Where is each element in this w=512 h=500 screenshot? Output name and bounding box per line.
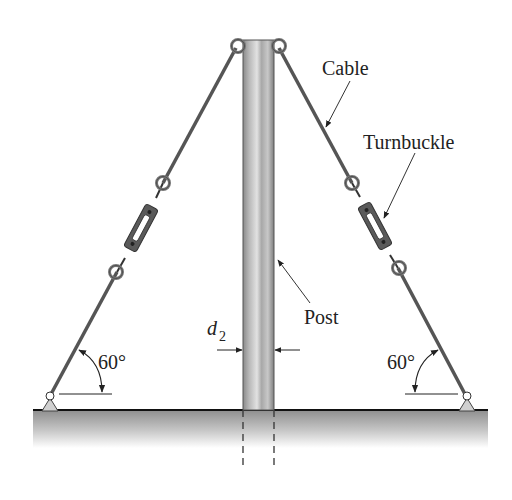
right-turnbuckle [358,202,393,251]
post-label: Post [304,306,339,328]
right-angle-label: 60° [387,351,415,373]
left-angle-label: 60° [98,351,126,373]
diameter-subscript: 2 [219,329,226,344]
diameter-symbol: d [207,317,218,339]
left-turnbuckle [124,204,159,253]
cable-label: Cable [322,57,369,79]
guyed-post-diagram: Cable Turnbuckle Post 60° 60° d 2 [0,0,512,500]
post [243,40,274,410]
turnbuckle-label: Turnbuckle [363,131,455,153]
right-pin-support [459,392,475,411]
ground [33,410,488,448]
left-pin-support [42,392,58,411]
post-leader-arrow [278,260,310,303]
turnbuckle-leader-arrow [384,153,415,218]
cable-leader-arrow [326,81,350,127]
